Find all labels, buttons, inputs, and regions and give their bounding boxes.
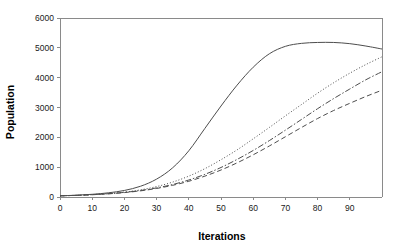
x-tick-label: 80 (313, 203, 323, 213)
x-tick-label: 60 (248, 203, 258, 213)
x-tick-label: 70 (281, 203, 291, 213)
x-tick-label: 20 (120, 203, 130, 213)
y-tick-label: 0 (49, 192, 54, 202)
x-tick-label: 10 (87, 203, 97, 213)
chart-canvas: 0100020003000400050006000010203040506070… (0, 0, 397, 245)
tick-marks (57, 18, 350, 200)
x-tick-label: 30 (152, 203, 162, 213)
x-tick-label: 0 (58, 203, 63, 213)
x-axis-title: Iterations (198, 230, 245, 242)
series-line-series-2 (60, 57, 382, 196)
y-axis-title: Population (4, 85, 16, 139)
x-tick-label: 40 (184, 203, 194, 213)
population-iterations-chart: 0100020003000400050006000010203040506070… (0, 0, 397, 245)
y-tick-label: 1000 (35, 162, 54, 172)
data-series-group (60, 42, 382, 195)
x-tick-label: 50 (216, 203, 226, 213)
y-tick-label: 5000 (35, 43, 54, 53)
y-tick-label: 2000 (35, 132, 54, 142)
y-tick-label: 6000 (35, 13, 54, 23)
y-tick-label: 3000 (35, 103, 54, 113)
series-line-series-3 (60, 72, 382, 196)
y-tick-label: 4000 (35, 73, 54, 83)
x-tick-label: 90 (345, 203, 355, 213)
series-line-series-1 (60, 42, 382, 195)
